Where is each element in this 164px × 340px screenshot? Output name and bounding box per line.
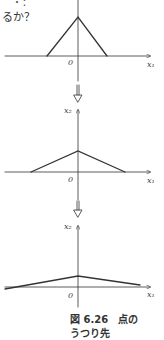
origin-label: 0 xyxy=(68,291,73,300)
x-axis-label: x₁ xyxy=(147,290,155,299)
down-arrow-icon xyxy=(74,201,82,217)
x-axis-label: x₁ xyxy=(147,60,155,69)
y-axis-label: x₂ xyxy=(64,222,72,231)
origin-label: 0 xyxy=(68,58,73,67)
x-axis-label: x₁ xyxy=(147,176,155,185)
plot-1 xyxy=(5,0,150,81)
plot-3 xyxy=(5,226,150,307)
figure-caption-line2: うつり先 xyxy=(70,325,110,340)
plot-2 xyxy=(5,110,150,200)
figure-caption-line1: 図 6.26 点の xyxy=(70,311,138,326)
down-arrow-icon xyxy=(74,85,82,102)
y-axis-label: x₂ xyxy=(64,106,72,115)
origin-label: 0 xyxy=(68,175,73,184)
triangle-shape xyxy=(47,17,107,56)
